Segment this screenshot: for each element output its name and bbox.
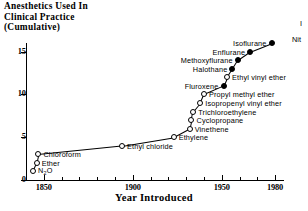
x-minor-tick	[151, 177, 152, 180]
data-point-label: Cyclopropane	[196, 116, 243, 125]
x-minor-tick	[97, 177, 98, 180]
data-point-label: Propyl methyl ether	[209, 90, 275, 99]
data-point[interactable]	[235, 57, 241, 63]
x-axis-title: Year Introduced	[0, 192, 308, 203]
x-minor-tick	[115, 177, 116, 180]
x-tick-label: 1850	[24, 183, 64, 192]
x-tick-label: 1950	[202, 183, 242, 192]
data-point[interactable]	[201, 91, 207, 97]
y-axis-line	[26, 43, 27, 181]
chart-root: Anesthetics Used In Clinical Practice (C…	[0, 0, 308, 211]
clipped-annotation: Nit	[292, 35, 301, 44]
data-point-label: Halothane	[193, 64, 228, 73]
x-minor-tick	[79, 177, 80, 180]
x-tick-label: 1900	[113, 183, 153, 192]
data-point-label: Ether	[42, 158, 60, 167]
x-axis-line	[26, 180, 284, 181]
plot-area: 051015 1850190019501980 N2OEtherChlorofo…	[0, 0, 308, 211]
data-point-label: Ethyl chloride	[127, 141, 173, 150]
x-tick	[222, 175, 223, 180]
data-point[interactable]	[224, 74, 230, 80]
data-point-label: Isoflurane	[233, 39, 267, 48]
data-point[interactable]	[35, 151, 41, 157]
data-point[interactable]	[119, 143, 125, 149]
data-point-label: Enflurane	[213, 47, 246, 56]
data-point[interactable]	[187, 126, 193, 132]
clipped-annotation: I	[300, 19, 302, 28]
data-point[interactable]	[188, 117, 194, 123]
y-tick-label: 5	[6, 132, 26, 141]
data-point[interactable]	[171, 134, 177, 140]
x-minor-tick	[62, 177, 63, 180]
x-minor-tick	[186, 177, 187, 180]
data-point-label: Fluroxene	[185, 81, 219, 90]
data-point[interactable]	[197, 100, 203, 106]
x-tick-label: 1980	[255, 183, 295, 192]
data-point-label: Vinethene	[195, 124, 229, 133]
data-point-label: Ethyl vinyl ether	[232, 73, 286, 82]
data-point[interactable]	[229, 66, 235, 72]
x-minor-tick	[240, 177, 241, 180]
y-tick-label: 15	[6, 47, 26, 56]
x-minor-tick	[257, 177, 258, 180]
data-point-label: N2O	[38, 166, 52, 176]
data-point-label: Chloroform	[43, 150, 81, 159]
y-tick-label: 10	[6, 89, 26, 98]
data-point[interactable]	[269, 40, 275, 46]
data-point[interactable]	[190, 109, 196, 115]
x-minor-tick	[168, 177, 169, 180]
data-point[interactable]	[34, 160, 40, 166]
data-point-label: Isopropenyl vinyl ether	[205, 98, 281, 107]
x-tick	[133, 175, 134, 180]
x-minor-tick	[204, 177, 205, 180]
data-point[interactable]	[247, 49, 253, 55]
data-point-label: Methoxyflurane	[181, 56, 233, 65]
x-tick	[275, 175, 276, 180]
data-point[interactable]	[221, 83, 227, 89]
data-point[interactable]	[30, 168, 36, 174]
data-point-label: Trichloroethylene	[198, 107, 256, 116]
data-point-label: Ethylene	[179, 133, 209, 142]
